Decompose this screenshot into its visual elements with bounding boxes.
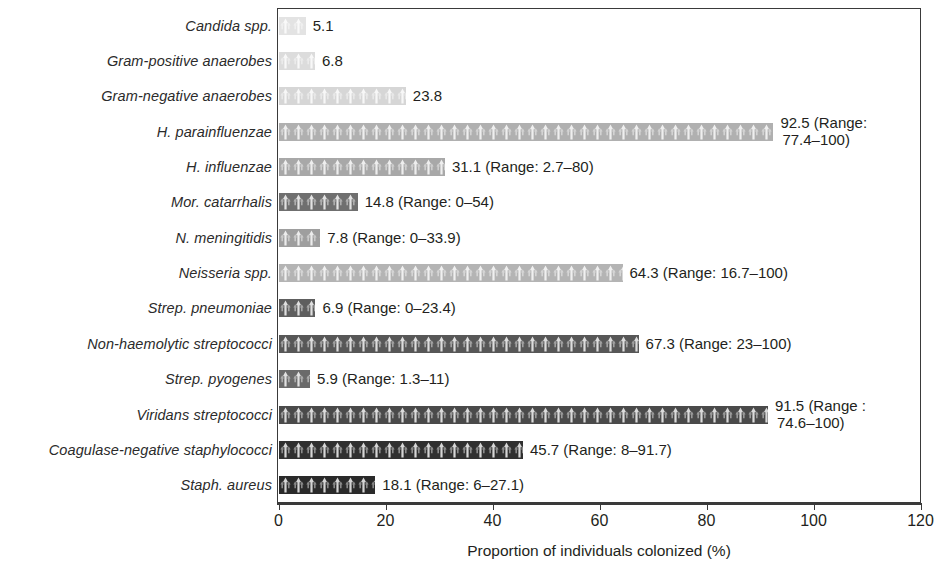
bar-row: Gram-positive anaerobes6.8 (0, 43, 952, 78)
bar-value-label-line: 5.9 (Range: 1.3–11) (317, 370, 449, 388)
bar-value-label-line: 67.3 (Range: 23–100) (646, 335, 792, 353)
category-label: Strep. pyogenes (165, 371, 272, 387)
x-axis-tick (386, 503, 388, 510)
bar-value-label: 5.1 (313, 17, 334, 35)
bar (279, 158, 445, 176)
bar-row: Strep. pneumoniae6.9 (Range: 0–23.4) (0, 291, 952, 326)
bar-value-label: 18.1 (Range: 6–27.1) (382, 476, 524, 494)
bar-fill (279, 17, 306, 35)
bar-value-label-line: 92.5 (Range: (780, 114, 867, 132)
bar (279, 335, 639, 353)
bar-fill (279, 87, 406, 105)
bar-fill (279, 158, 445, 176)
x-axis-tick-label: 40 (484, 512, 502, 530)
bar-value-label-line: 77.4–100) (782, 132, 867, 150)
x-axis-tick (493, 503, 495, 510)
category-label: H. parainfluenzae (157, 124, 272, 140)
bar-value-label: 64.3 (Range: 16.7–100) (630, 264, 788, 282)
bar-row: Gram-negative anaerobes23.8 (0, 79, 952, 114)
bar-fill (279, 123, 774, 141)
bar-value-label-line: 14.8 (Range: 0–54) (365, 194, 494, 212)
bar-value-label: 7.8 (Range: 0–33.9) (327, 229, 460, 247)
bar-row: Coagulase-negative staphylococci45.7 (Ra… (0, 432, 952, 467)
bar-value-label-line: 6.9 (Range: 0–23.4) (322, 300, 455, 318)
bar-fill (279, 441, 523, 459)
category-label: N. meningitidis (175, 230, 272, 246)
bar-row: H. influenzae31.1 (Range: 2.7–80) (0, 149, 952, 184)
bar-value-label: 5.9 (Range: 1.3–11) (317, 370, 449, 388)
x-axis-tick-label: 0 (274, 512, 283, 530)
bar-fill (279, 52, 315, 70)
category-label: Viridans streptococci (136, 407, 272, 423)
bar-value-label: 23.8 (413, 88, 442, 106)
category-label: Neisseria spp. (179, 265, 272, 281)
bar (279, 229, 321, 247)
bar-value-label-line: 7.8 (Range: 0–33.9) (327, 229, 460, 247)
x-axis-tick-label: 80 (698, 512, 716, 530)
x-axis-tick-label: 20 (377, 512, 395, 530)
x-axis-tick-label: 120 (907, 512, 934, 530)
x-axis-tick-label: 100 (800, 512, 827, 530)
bar-fill (279, 370, 311, 388)
category-label: Gram-negative anaerobes (101, 88, 272, 104)
bar-value-label: 6.9 (Range: 0–23.4) (322, 300, 455, 318)
bar (279, 441, 523, 459)
x-axis-tick (279, 503, 281, 510)
bar-value-label-line: 64.3 (Range: 16.7–100) (630, 264, 788, 282)
bar (279, 370, 311, 388)
category-label: Staph. aureus (180, 477, 272, 493)
bar-value-label: 14.8 (Range: 0–54) (365, 194, 494, 212)
bar-fill (279, 476, 376, 494)
bar-value-label-line: 31.1 (Range: 2.7–80) (452, 158, 594, 176)
bar (279, 476, 376, 494)
bar-value-label-line: 18.1 (Range: 6–27.1) (382, 476, 524, 494)
bar-value-label: 92.5 (Range:77.4–100) (780, 114, 867, 149)
bar-row: Non-haemolytic streptococci67.3 (Range: … (0, 326, 952, 361)
bar (279, 264, 623, 282)
bar-value-label: 91.5 (Range :74.6–100) (775, 397, 866, 432)
bar-fill (279, 299, 316, 317)
bar-value-label-line: 91.5 (Range : (775, 397, 866, 415)
bar-value-label: 45.7 (Range: 8–91.7) (530, 441, 672, 459)
bar (279, 17, 306, 35)
bar-row: Mor. catarrhalis14.8 (Range: 0–54) (0, 185, 952, 220)
bar (279, 406, 769, 424)
bar-fill (279, 264, 623, 282)
bar (279, 193, 358, 211)
bar-row: Strep. pyogenes5.9 (Range: 1.3–11) (0, 362, 952, 397)
bar (279, 87, 406, 105)
x-axis-tick (707, 503, 709, 510)
bar-row: Neisseria spp.64.3 (Range: 16.7–100) (0, 256, 952, 291)
category-label: Non-haemolytic streptococci (87, 336, 272, 352)
x-axis-tick-label: 60 (591, 512, 609, 530)
bar-value-label-line: 23.8 (413, 88, 442, 106)
bar (279, 52, 315, 70)
bar-row: Viridans streptococci91.5 (Range :74.6–1… (0, 397, 952, 432)
bar (279, 123, 774, 141)
bar-value-label-line: 74.6–100) (777, 415, 866, 433)
x-axis-title: Proportion of individuals colonized (%) (277, 542, 921, 560)
bar-fill (279, 193, 358, 211)
bar-fill (279, 229, 321, 247)
category-label: Mor. catarrhalis (171, 194, 272, 210)
category-label: Strep. pneumoniae (148, 300, 272, 316)
bar-row: N. meningitidis7.8 (Range: 0–33.9) (0, 220, 952, 255)
bar (279, 299, 316, 317)
x-axis-tick (600, 503, 602, 510)
bar-row: Candida spp.5.1 (0, 8, 952, 43)
category-label: H. influenzae (186, 159, 272, 175)
category-label: Gram-positive anaerobes (107, 53, 272, 69)
bar-row: H. parainfluenzae92.5 (Range:77.4–100) (0, 114, 952, 149)
bar-fill (279, 406, 769, 424)
bar-row: Staph. aureus18.1 (Range: 6–27.1) (0, 468, 952, 503)
bar-value-label-line: 45.7 (Range: 8–91.7) (530, 441, 672, 459)
bar-value-label: 67.3 (Range: 23–100) (646, 335, 792, 353)
x-axis-tick (921, 503, 923, 510)
bar-value-label: 31.1 (Range: 2.7–80) (452, 158, 594, 176)
bar-value-label: 6.8 (322, 52, 343, 70)
bar-value-label-line: 6.8 (322, 52, 343, 70)
x-axis-tick (814, 503, 816, 510)
category-label: Coagulase-negative staphylococci (49, 442, 272, 458)
bar-fill (279, 335, 639, 353)
category-label: Candida spp. (185, 18, 272, 34)
